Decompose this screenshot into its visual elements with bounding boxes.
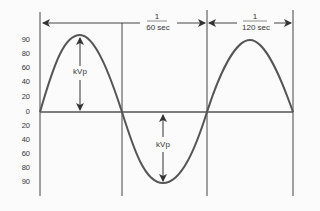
interval-60-numerator: 1 (155, 12, 160, 21)
y-tick: 80 (22, 163, 30, 172)
interval-60-denominator: 60 sec (146, 23, 170, 32)
interval-120-numerator: 1 (253, 12, 258, 21)
y-tick: 20 (22, 121, 30, 130)
y-tick: 60 (22, 149, 30, 158)
kvp-label-top: kVp (73, 67, 87, 76)
kvp-label-bottom: kVp (156, 140, 170, 149)
y-tick: 20 (22, 92, 30, 101)
waveform-diagram: 1 60 sec 1 120 sec 90 80 60 40 20 0 20 4… (0, 0, 320, 211)
y-tick: 60 (22, 63, 30, 72)
y-tick: 40 (22, 77, 30, 86)
y-tick: 0 (26, 107, 30, 116)
sine-waveform (40, 35, 293, 183)
y-tick: 90 (22, 35, 30, 44)
y-tick: 90 (22, 177, 30, 186)
y-tick: 40 (22, 135, 30, 144)
interval-120-denominator: 120 sec (242, 23, 270, 32)
y-tick: 80 (22, 49, 30, 58)
